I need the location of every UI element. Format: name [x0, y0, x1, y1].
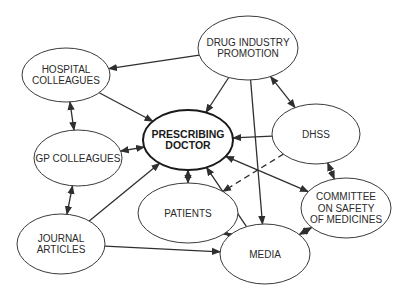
node-label: OF MEDICINES [310, 214, 383, 225]
edge-drug_industry-to-media [251, 80, 263, 224]
node-drug-industry: DRUG INDUSTRYPROMOTION [198, 16, 298, 80]
node-label: HOSPITAL [42, 64, 91, 75]
node-label: DOCTOR [165, 139, 211, 151]
node-label: DHSS [302, 129, 330, 140]
edge-drug_industry-to-hospital [109, 55, 200, 68]
nodes-layer: DRUG INDUSTRYPROMOTIONHOSPITALCOLLEAGUES… [17, 16, 391, 284]
node-prescribing-doctor: PRESCRIBINGDOCTOR [143, 110, 233, 170]
edge-dhss-to-prescribing_doctor [233, 136, 272, 138]
edge-hospital-to-prescribing_doctor [99, 93, 153, 122]
node-csm: COMMITTEEON SAFETYOF MEDICINES [301, 178, 391, 238]
node-patients: PATIENTS [138, 183, 238, 243]
node-label: COLLEAGUES [32, 75, 100, 86]
node-label: ARTICLES [37, 244, 86, 255]
edge-dhss-to-patients [223, 154, 284, 191]
edge-gp-to-prescribing_doctor [121, 147, 145, 151]
edge-dhss-to-csm [328, 163, 335, 179]
edge-gp-to-journal [67, 186, 73, 215]
edge-drug_industry-to-dhss [271, 77, 296, 108]
edge-hospital-to-gp [70, 102, 74, 130]
edge-csm-to-media [299, 228, 311, 235]
influence-diagram: DRUG INDUSTRYPROMOTIONHOSPITALCOLLEAGUES… [0, 0, 401, 297]
node-label: JOURNAL [38, 233, 85, 244]
edge-drug_industry-to-prescribing_doctor [206, 78, 229, 113]
edge-patients-to-media [225, 233, 229, 235]
node-dhss: DHSS [272, 104, 360, 164]
node-hospital: HOSPITALCOLLEAGUES [22, 48, 110, 102]
node-label: MEDIA [249, 249, 281, 260]
node-media: MEDIA [220, 224, 310, 284]
node-label: COMMITTEE [316, 191, 376, 202]
node-label: PATIENTS [164, 208, 212, 219]
edge-journal-to-media [105, 246, 220, 252]
node-journal: JOURNALARTICLES [17, 214, 105, 274]
node-label: ON SAFETY [318, 203, 375, 214]
edge-prescribing_doctor-to-csm [226, 156, 308, 191]
node-label: DRUG INDUSTRY [206, 37, 289, 48]
node-label: PROMOTION [217, 48, 279, 59]
node-gp: GP COLLEAGUES [34, 130, 122, 186]
node-label: GP COLLEAGUES [36, 153, 121, 164]
node-label: PRESCRIBING [152, 128, 225, 140]
